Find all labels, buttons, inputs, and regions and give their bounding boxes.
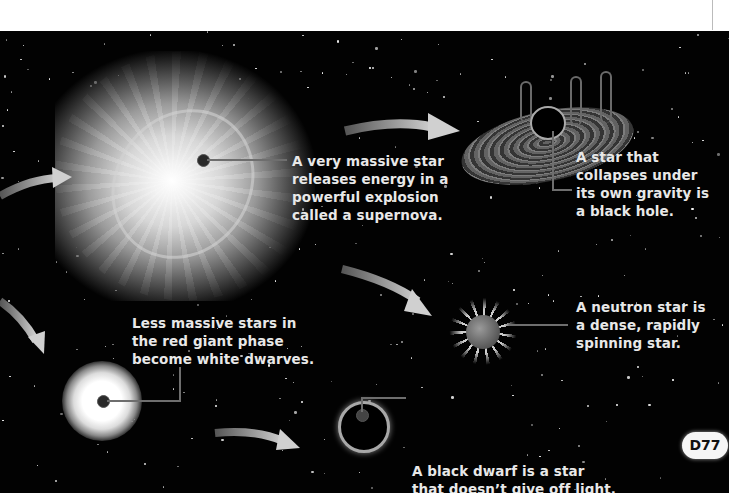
page-top-margin xyxy=(0,0,729,32)
arrow-right-icon xyxy=(0,167,72,196)
margin-rule xyxy=(712,0,713,30)
arrow-down-right-icon xyxy=(342,269,432,316)
lifecycle-arrows xyxy=(0,31,729,493)
arrow-right-icon xyxy=(215,429,300,450)
arrow-right-icon xyxy=(345,113,460,140)
star-lifecycle-diagram: A very massive star releases energy in a… xyxy=(0,31,729,493)
arrow-down-icon xyxy=(0,301,45,354)
page-number-badge: D77 xyxy=(682,432,728,459)
